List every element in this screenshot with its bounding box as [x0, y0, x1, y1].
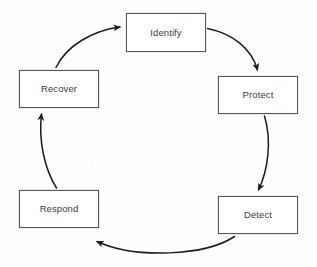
- node-respond[interactable]: Respond: [19, 190, 99, 228]
- edge-detect-to-respond: [97, 237, 235, 254]
- edge-respond-to-recover: [41, 114, 57, 188]
- node-recover[interactable]: Recover: [19, 70, 99, 108]
- node-identify[interactable]: Identify: [126, 13, 206, 52]
- edge-recover-to-identify: [56, 27, 120, 68]
- node-protect[interactable]: Protect: [218, 76, 298, 114]
- edge-protect-to-detect: [259, 116, 269, 190]
- diagram-canvas: Identify Protect Detect Respond Recover: [0, 0, 317, 267]
- node-detect-label: Detect: [244, 210, 272, 220]
- node-detect[interactable]: Detect: [218, 196, 298, 234]
- node-respond-label: Respond: [40, 204, 79, 214]
- edge-identify-to-protect: [208, 29, 258, 71]
- node-recover-label: Recover: [41, 84, 77, 94]
- node-protect-label: Protect: [243, 90, 274, 100]
- node-identify-label: Identify: [150, 28, 181, 38]
